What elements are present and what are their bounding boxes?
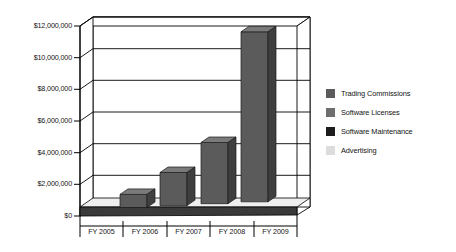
legend-swatch-icon	[326, 127, 335, 136]
legend-label: Advertising	[341, 146, 376, 155]
legend-item-advertising: Advertising	[326, 141, 456, 160]
x-tick-label-fy-2008: FY 2008	[210, 228, 254, 236]
x-tick-label-fy-2005: FY 2005	[80, 228, 123, 236]
legend-label: Software Maintenance	[341, 127, 413, 136]
legend-swatch-icon	[326, 89, 335, 98]
x-tick-label-fy-2007: FY 2007	[167, 228, 210, 236]
legend-swatch-icon	[326, 146, 335, 155]
x-tick-label-fy-2009: FY 2009	[254, 228, 297, 236]
legend-label: Software Licenses	[341, 108, 400, 117]
legend-item-software-maintenance: Software Maintenance	[326, 122, 456, 141]
x-tick-label-fy-2006: FY 2006	[123, 228, 167, 236]
bar-chart: $12,000,000 $10,000,000 $8,000,000 $6,00…	[0, 0, 456, 252]
legend-item-trading-commissions: Trading Commissions	[326, 84, 456, 103]
legend-label: Trading Commissions	[341, 89, 410, 98]
legend-item-software-licenses: Software Licenses	[326, 103, 456, 122]
chart-legend: Trading Commissions Software Licenses So…	[326, 84, 456, 160]
legend-swatch-icon	[326, 108, 335, 117]
